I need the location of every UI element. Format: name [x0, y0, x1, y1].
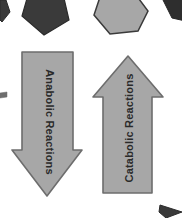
- diagram-canvas: Anabolic Reactions Catabolic Reactions: [0, 0, 182, 218]
- polygon-dark-top-right-icon: [158, 0, 182, 22]
- pentagon-dark-top-left-icon: [22, 0, 69, 35]
- tick-dark-left-edge-icon: [0, 92, 7, 98]
- catabolic-arrow-label: Catabolic Reactions: [123, 74, 135, 183]
- anabolic-arrow-group: Anabolic Reactions: [12, 52, 82, 196]
- anabolic-arrow-label: Anabolic Reactions: [44, 69, 56, 175]
- hexagon-light-top-center-icon: [94, 0, 148, 34]
- catabolic-arrow-group: Catabolic Reactions: [93, 56, 163, 193]
- corner-sliver-top-left-icon: [0, 0, 10, 22]
- diagram-svg: Anabolic Reactions Catabolic Reactions: [0, 0, 182, 218]
- arrowhead-dark-bottom-right-icon: [159, 205, 182, 218]
